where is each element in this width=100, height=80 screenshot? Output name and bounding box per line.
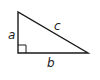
- right-triangle-diagram: a b c: [0, 0, 100, 80]
- right-angle-marker: [18, 45, 26, 53]
- label-c: c: [54, 19, 61, 33]
- label-a: a: [8, 28, 15, 42]
- label-b: b: [47, 56, 55, 70]
- triangle-outline: [18, 12, 88, 53]
